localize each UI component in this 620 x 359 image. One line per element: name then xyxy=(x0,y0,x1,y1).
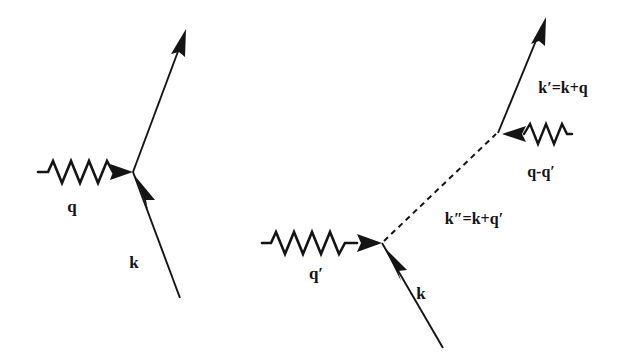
left-photon-label: q xyxy=(67,197,77,216)
right-photon-in-zigzag xyxy=(262,232,357,254)
left-diagram: q k xyxy=(38,29,186,298)
right-incoming-fermion-label: k xyxy=(416,284,426,303)
diagram-canvas: q k q′ k k″=k+q′ q xyxy=(0,0,620,359)
left-outgoing-fermion-arrowhead xyxy=(171,29,186,57)
right-photon-out-label: q-q′ xyxy=(527,163,555,181)
internal-propagator-label: k″=k+q′ xyxy=(445,210,503,228)
right-photon-in-label: q′ xyxy=(309,264,323,283)
right-outgoing-fermion-label: k′=k+q xyxy=(538,79,588,97)
right-incoming-fermion-arrowhead xyxy=(384,247,407,281)
right-photon-out-arrowhead xyxy=(502,126,526,142)
left-outgoing-fermion-line xyxy=(133,38,183,172)
left-incoming-fermion-line xyxy=(133,172,180,298)
right-diagram: q′ k k″=k+q′ q-q′ k′=k+q xyxy=(262,17,588,348)
right-photon-out-zigzag xyxy=(524,124,572,144)
right-photon-in-arrowhead xyxy=(357,234,382,252)
left-incoming-fermion-label: k xyxy=(129,253,139,272)
left-photon-zigzag xyxy=(38,161,126,183)
feynman-diagram-figure: q k q′ k k″=k+q′ q xyxy=(0,0,620,359)
right-outgoing-fermion-arrowhead xyxy=(531,17,546,46)
left-photon-arrowhead xyxy=(110,164,133,180)
